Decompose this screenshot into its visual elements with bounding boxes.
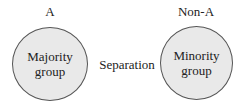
majority-group-label: Majority group xyxy=(27,49,73,79)
majority-line1: Majority xyxy=(27,49,73,64)
majority-group-circle: Majority group xyxy=(12,27,88,101)
minority-line2: group xyxy=(173,63,219,78)
minority-group-circle: Minority group xyxy=(160,26,233,100)
minority-group-label: Minority group xyxy=(173,48,219,78)
right-header: Non-A xyxy=(176,5,216,19)
separation-label: Separation xyxy=(94,58,160,72)
majority-line2: group xyxy=(27,64,73,79)
left-header: A xyxy=(40,5,60,19)
minority-line1: Minority xyxy=(173,48,219,63)
